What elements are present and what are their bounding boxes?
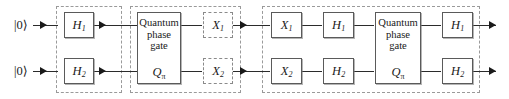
arrow-bottom-out [489, 67, 496, 75]
gate-h1-mid[interactable]: H1 [323, 12, 354, 38]
wire-bottom-arrow-to-x2solid [253, 71, 270, 72]
gate-h1-prep-label: H1 [72, 19, 85, 32]
qpg2-line2: phase [376, 29, 420, 41]
arrow-bottom-after-x2 [240, 67, 247, 75]
qpg2-line1: Quantum [376, 17, 420, 29]
gate-x1-dashed-label: X1 [212, 19, 224, 32]
gate-h2-mid-label: H2 [332, 65, 345, 78]
gate-x1-solid[interactable]: X1 [271, 12, 302, 38]
gate-h2-prep[interactable]: H2 [64, 58, 94, 84]
gate-x1-solid-label: X1 [281, 19, 293, 32]
arrow-top-in [40, 21, 47, 29]
gate-h2-prep-label: H2 [72, 65, 85, 78]
qpg1-line1: Quantum [138, 17, 180, 29]
gate-h2-out[interactable]: H2 [442, 58, 473, 84]
quantum-phase-gate-2[interactable]: Quantum phase gate Qπ [375, 12, 421, 84]
quantum-circuit-diagram: |0⟩ |0⟩ H1 H2 Quantum p [0, 0, 509, 99]
qubit-1-input-label: |0⟩ [14, 19, 28, 32]
arrow-bottom-in [40, 67, 47, 75]
wire-bottom-qpg2-to-h2out [421, 71, 441, 72]
qubit-2-input-label: |0⟩ [14, 65, 28, 78]
gate-x1-dashed[interactable]: X1 [203, 12, 233, 38]
wire-bottom-h2-to-qpg2 [354, 71, 374, 72]
qpg1-line2: phase [138, 29, 180, 41]
gate-x2-solid-label: X2 [281, 65, 293, 78]
wire-top-x1solid-to-h1 [302, 25, 322, 26]
gate-h1-out[interactable]: H1 [442, 12, 473, 38]
wire-top-arrow-to-x1solid [253, 25, 270, 26]
gate-h2-out-label: H2 [451, 65, 464, 78]
gate-x2-dashed[interactable]: X2 [203, 58, 233, 84]
arrow-top-after-h1 [99, 21, 106, 29]
wire-bottom-arrow-to-qpg [112, 71, 138, 72]
qpg1-line3: gate [138, 40, 180, 52]
arrow-top-after-x1 [240, 21, 247, 29]
wire-top-arrow-to-qpg [112, 25, 138, 26]
qpg1-symbol: Qπ [138, 66, 180, 79]
wire-bottom-qpg-to-x2 [180, 71, 202, 72]
wire-bottom-x2solid-to-h2 [302, 71, 322, 72]
gate-h1-prep[interactable]: H1 [64, 12, 94, 38]
arrow-bottom-after-h2 [99, 67, 106, 75]
gate-x2-dashed-label: X2 [212, 65, 224, 78]
wire-top-qpg2-to-h1out [421, 25, 441, 26]
gate-h1-mid-label: H1 [332, 19, 345, 32]
gate-h2-mid[interactable]: H2 [323, 58, 354, 84]
qpg2-line3: gate [376, 40, 420, 52]
wire-top-qpg-to-x1 [180, 25, 202, 26]
arrow-top-out [489, 21, 496, 29]
qpg2-symbol: Qπ [376, 66, 420, 79]
wire-top-h1-to-qpg2 [354, 25, 374, 26]
gate-h1-out-label: H1 [451, 19, 464, 32]
gate-x2-solid[interactable]: X2 [271, 58, 302, 84]
quantum-phase-gate-1[interactable]: Quantum phase gate Qπ [137, 12, 181, 84]
